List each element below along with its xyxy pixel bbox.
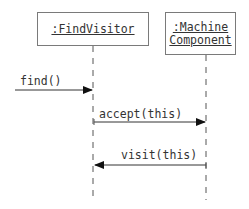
object-label-line-1: :Machine (173, 21, 228, 34)
object-label: :FindVisitor (51, 23, 134, 36)
message-label-visit: visit(this) (121, 149, 197, 162)
message-label-accept: accept(this) (99, 108, 182, 121)
object-findvisitor: :FindVisitor (37, 12, 149, 46)
object-label-line-2: Component (169, 34, 231, 47)
sequence-diagram: :FindVisitor :Machine Component find() a… (0, 0, 249, 209)
message-label-find: find() (20, 75, 62, 88)
object-machinecomponent: :Machine Component (165, 12, 236, 55)
